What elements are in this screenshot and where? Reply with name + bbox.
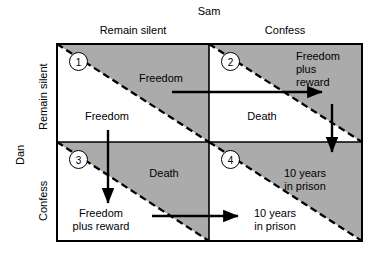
left-axis-title: Dan bbox=[14, 145, 27, 165]
cell-3-sam-payoff: Death bbox=[149, 167, 178, 180]
cell-2-sam-payoff-line1: Freedom bbox=[296, 50, 340, 63]
matrix-graphic bbox=[0, 0, 380, 261]
cell-1-sam-payoff: Freedom bbox=[139, 72, 183, 85]
cell-2-dan-payoff: Death bbox=[247, 110, 276, 123]
cell-2-sam-payoff-line3: reward bbox=[296, 76, 330, 89]
cell-4-dan-payoff-line2: in prison bbox=[254, 220, 296, 233]
column-header-remain-silent: Remain silent bbox=[100, 24, 167, 37]
cell-3-dan-payoff-line1: Freedom bbox=[79, 207, 123, 220]
top-axis-title: Sam bbox=[198, 5, 221, 18]
cell-3-number-badge: 3 bbox=[69, 150, 88, 169]
cell-4-sam-payoff-line2: in prison bbox=[284, 180, 326, 193]
cell-1-number-badge: 1 bbox=[69, 52, 88, 71]
row-header-remain-silent: Remain silent bbox=[37, 63, 50, 130]
row-header-confess: Confess bbox=[37, 181, 50, 221]
cell-3-dan-payoff-line2: plus reward bbox=[73, 220, 130, 233]
cell-2-sam-payoff-line2: plus bbox=[296, 63, 316, 76]
cell-4-dan-payoff-line1: 10 years bbox=[254, 207, 296, 220]
payoff-matrix-figure: Sam Remain silent Confess Dan Remain sil… bbox=[0, 0, 380, 261]
column-header-confess: Confess bbox=[265, 24, 305, 37]
cell-4-sam-payoff-line1: 10 years bbox=[284, 167, 326, 180]
cell-4-number-badge: 4 bbox=[221, 150, 240, 169]
cell-1-dan-payoff: Freedom bbox=[85, 110, 129, 123]
cell-2-number-badge: 2 bbox=[221, 52, 240, 71]
